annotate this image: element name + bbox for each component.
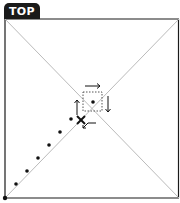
top-view-diagram [0,0,180,203]
path-dot [69,117,73,121]
arrow-down-icon [106,96,111,112]
arrow-up-icon [75,100,80,115]
origin-dot[interactable] [3,196,7,200]
path-dot [36,156,40,160]
path-dot [25,169,29,173]
path-dots [14,117,73,186]
path-dot [58,130,62,134]
path-dot [47,143,51,147]
center-dot [91,100,95,104]
path-dot [14,182,18,186]
arrow-right-icon [85,84,100,89]
x-marker-icon[interactable] [77,116,85,124]
